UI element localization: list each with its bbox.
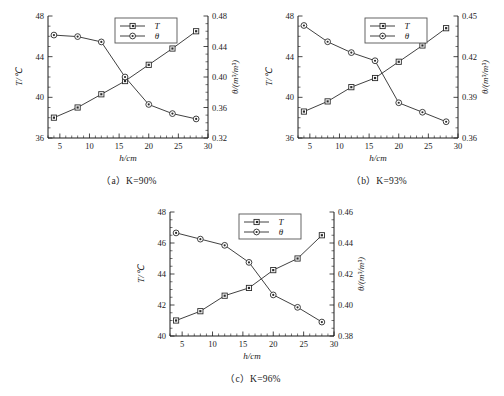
y-right-tick-label: 0.45 [462,11,477,21]
y-left-tick-label: 44 [158,269,167,279]
legend-a: Tθ [115,18,177,43]
x-tick-label: 30 [330,339,339,349]
x-axis-title: h/cm [369,153,387,163]
x-axis-title: h/cm [243,351,261,361]
series-theta-c [173,230,325,325]
y-right-tick-label: 0.36 [212,103,227,113]
y-right-axis-title: θ/(m³/m³) [356,257,366,291]
y-left-axis-title: T/℃ [136,264,146,283]
y-right-tick-label: 0.36 [462,133,477,143]
y-left-tick-label: 42 [158,300,167,310]
y-left-tick-label: 48 [286,11,295,21]
y-right-tick-label: 0.39 [462,92,477,102]
x-tick-label: 10 [85,141,94,151]
y-left-tick-label: 44 [286,52,295,62]
plot-area-a: 51015202530h/cm36404448T/℃0.320.360.400.… [6,4,252,172]
x-tick-label: 20 [394,141,403,151]
x-axis-title: h/cm [119,153,137,163]
x-tick-label: 10 [335,141,344,151]
y-left-tick-label: 40 [158,331,167,341]
chart-svg-b: 51015202530h/cm36404448T/℃0.360.390.420.… [256,4,502,172]
x-tick-label: 15 [239,339,248,349]
y-left-tick-label: 40 [36,92,45,102]
legend-label-theta: θ [155,31,160,41]
plot-area-c: 51015202530h/cm4042444648T/℃0.380.400.42… [128,200,378,370]
x-tick-label: 20 [269,339,278,349]
y-right-axis-title: θ/(m³/m³) [230,60,240,94]
plot-area-b: 51015202530h/cm36404448T/℃0.360.390.420.… [256,4,502,172]
y-right-tick-label: 0.48 [212,11,227,21]
x-tick-label: 25 [424,141,433,151]
y-right-tick-label: 0.40 [338,300,353,310]
y-left-axis-title: T/℃ [264,67,274,86]
legend-c: Tθ [239,214,301,239]
y-right-tick-label: 0.46 [338,207,353,217]
y-right-tick-label: 0.44 [338,238,354,248]
x-tick-label: 5 [308,141,312,151]
y-right-tick-label: 0.38 [338,331,353,341]
y-left-tick-label: 40 [286,92,295,102]
x-tick-label: 15 [365,141,374,151]
x-tick-label: 10 [208,339,217,349]
x-tick-label: 30 [204,141,213,151]
panel-b: 51015202530h/cm36404448T/℃0.360.390.420.… [256,4,502,194]
chart-svg-c: 51015202530h/cm4042444648T/℃0.380.400.42… [128,200,378,370]
panel-c: 51015202530h/cm4042444648T/℃0.380.400.42… [128,200,378,392]
y-left-axis-title: T/℃ [14,67,24,86]
legend-label-theta: θ [279,227,284,237]
y-left-tick-label: 44 [36,52,45,62]
legend-label-theta: θ [405,31,410,41]
panel-a-caption: （a）K=90% [6,173,252,187]
legend-box [115,18,177,43]
y-right-tick-label: 0.42 [462,52,477,62]
panel-c-caption: （c）K=96% [128,371,378,385]
x-tick-label: 25 [299,339,308,349]
y-left-tick-label: 48 [36,11,45,21]
chart-svg-a: 51015202530h/cm36404448T/℃0.320.360.400.… [6,4,252,172]
figure-three-panel-chart: 51015202530h/cm36404448T/℃0.320.360.400.… [0,0,504,396]
y-right-axis-title: θ/(m³/m³) [480,60,490,94]
x-tick-label: 25 [174,141,183,151]
x-tick-label: 30 [454,141,463,151]
x-tick-label: 5 [180,339,184,349]
y-left-tick-label: 48 [158,207,167,217]
y-right-tick-label: 0.32 [212,133,227,143]
x-tick-label: 15 [115,141,124,151]
y-left-tick-label: 46 [158,238,167,248]
x-tick-label: 20 [144,141,153,151]
panel-b-caption: （b）K=93% [256,173,502,187]
legend-b: Tθ [365,18,427,43]
y-left-tick-label: 36 [36,133,45,143]
legend-box [365,18,427,43]
y-right-tick-label: 0.42 [338,269,353,279]
y-right-tick-label: 0.44 [212,42,228,52]
legend-box [239,214,301,239]
panel-a: 51015202530h/cm36404448T/℃0.320.360.400.… [6,4,252,194]
x-tick-label: 5 [58,141,62,151]
y-left-tick-label: 36 [286,133,295,143]
y-right-tick-label: 0.40 [212,72,227,82]
